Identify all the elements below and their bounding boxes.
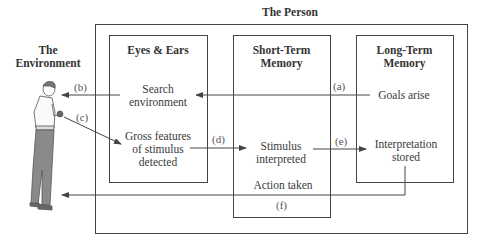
interpretation-stored-line1: Interpretation [366, 138, 446, 151]
arrow-label-b: (b) [74, 81, 87, 93]
search-environment-line1: Search [120, 83, 196, 96]
arrow-label-c: (c) [76, 111, 88, 123]
arrow-label-d: (d) [212, 133, 225, 145]
flow-arrows [0, 0, 483, 243]
stimulus-interpreted-line2: interpreted [246, 153, 316, 166]
gross-features-line1: Gross features [115, 130, 201, 143]
node-interpretation-stored: Interpretation stored [366, 138, 446, 164]
node-search-environment: Search environment [120, 83, 196, 109]
arrow-f [62, 166, 405, 195]
node-gross-features: Gross features of stimulus detected [115, 130, 201, 169]
gross-features-line2: of stimulus [115, 143, 201, 156]
search-environment-line2: environment [120, 96, 196, 109]
gross-features-line3: detected [115, 156, 201, 169]
arrow-label-e: (e) [335, 135, 347, 147]
arrow-c [64, 117, 121, 144]
stimulus-interpreted-line1: Stimulus [246, 140, 316, 153]
goals-arise-line1: Goals arise [371, 89, 437, 102]
node-action-taken: Action taken [248, 179, 318, 192]
node-stimulus-interpreted: Stimulus interpreted [246, 140, 316, 166]
arrow-label-f: (f) [276, 199, 287, 211]
person-figure-icon [30, 82, 63, 211]
action-taken-line1: Action taken [248, 179, 318, 192]
node-goals-arise: Goals arise [371, 89, 437, 102]
interpretation-stored-line2: stored [366, 151, 446, 164]
arrow-label-a: (a) [333, 80, 345, 92]
